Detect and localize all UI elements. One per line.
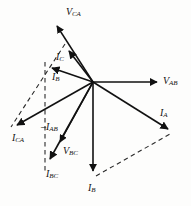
- label-v-ca-sub: CA: [72, 10, 81, 18]
- phasor-vectors: [17, 26, 168, 171]
- construction-lines: [11, 44, 170, 176]
- label-i-ca-sub: CA: [15, 136, 24, 144]
- label-i-a-sub: A: [163, 111, 167, 119]
- label-v-ab: VAB: [163, 76, 177, 87]
- label-i-bc: IBC: [46, 169, 58, 180]
- label-i-a: IA: [160, 108, 167, 119]
- construction-line-i-b-to-i-a: [96, 134, 170, 176]
- label-i-c: IC: [56, 52, 64, 63]
- label-i-b-sub: B: [91, 186, 95, 194]
- label-i-b: IB: [88, 183, 95, 194]
- label-minus-i-ab-sub: AB: [49, 125, 57, 133]
- label-i-b-phase-sub: B: [55, 75, 59, 83]
- label-v-ab-sub: AB: [169, 79, 177, 87]
- label-i-b-phase: IB: [52, 72, 59, 83]
- label-v-bc-sub: BC: [69, 149, 78, 157]
- phasor-i-a: [93, 82, 168, 129]
- label-minus-i-ab: –IAB: [41, 122, 58, 133]
- label-i-bc-sub: BC: [49, 172, 58, 180]
- label-v-bc: VBC: [63, 146, 78, 157]
- phasor-diagram-figure: VCA IC IB VAB IA –IAB ICA VBC IBC IB: [0, 0, 191, 206]
- label-i-c-sub: C: [59, 55, 63, 63]
- phasor-diagram-canvas: [0, 0, 191, 206]
- label-i-ca: ICA: [12, 133, 24, 144]
- label-v-ca: VCA: [66, 7, 81, 18]
